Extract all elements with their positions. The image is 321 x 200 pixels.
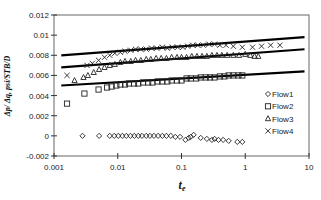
y-axis-title: Δp/ Δq, psi/STB/D xyxy=(3,56,12,118)
legend-label: Flow1 xyxy=(272,90,294,99)
legend-label: Flow4 xyxy=(272,127,294,136)
y-tick-label: -0.002 xyxy=(26,152,49,161)
y-tick-label: 0.012 xyxy=(29,11,50,20)
plot-area xyxy=(54,15,309,156)
y-axis: -0.00200.0020.0040.0060.0080.010.012 xyxy=(26,11,57,161)
legend-label: Flow2 xyxy=(272,102,294,111)
y-tick-label: 0 xyxy=(45,132,50,141)
y-tick-label: 0.01 xyxy=(33,31,49,40)
x-tick-label: 10 xyxy=(305,163,314,172)
chart: -0.00200.0020.0040.0060.0080.010.012 0.0… xyxy=(0,0,321,200)
y-tick-label: 0.002 xyxy=(29,112,50,121)
x-axis-title-sub: e xyxy=(182,184,186,193)
x-tick-label: 0.001 xyxy=(44,163,65,172)
x-tick-label: 0.01 xyxy=(110,163,126,172)
x-axis-title: te xyxy=(179,178,186,193)
y-tick-label: 0.006 xyxy=(29,71,50,80)
legend-label: Flow3 xyxy=(272,115,294,124)
y-tick-label: 0.008 xyxy=(29,51,50,60)
x-tick-label: 1 xyxy=(243,163,248,172)
y-tick-label: 0.004 xyxy=(29,92,50,101)
x-tick-label: 0.1 xyxy=(176,163,188,172)
